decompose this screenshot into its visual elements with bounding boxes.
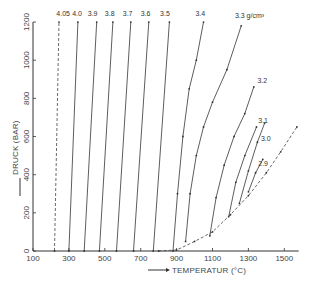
x-axis-title: TEMPERATUR (°C) [172, 266, 246, 275]
curve-label: 3.4 [195, 10, 205, 17]
curve-label: 3.0 [261, 135, 271, 142]
curve-label: 3.2 [257, 77, 267, 84]
data-point [116, 250, 118, 252]
data-point [176, 249, 178, 251]
curve-label: 3.6 [141, 10, 151, 17]
data-point [148, 21, 150, 23]
data-point [194, 241, 196, 243]
data-point [130, 21, 132, 23]
data-point [265, 172, 267, 174]
data-point [209, 235, 211, 237]
data-point [226, 69, 228, 71]
data-point [256, 141, 258, 143]
isochore-3.7 [117, 22, 131, 251]
x-arrowhead-icon [166, 268, 170, 272]
curve-label: 3.5 [160, 10, 170, 17]
axes: 1003005007009001100130015000200400600800… [22, 13, 299, 263]
x-tick-label: 700 [134, 254, 148, 263]
data-point [223, 164, 225, 166]
isochore-3.3gcm [186, 26, 242, 242]
isochore-4.05 [55, 22, 60, 251]
data-point [99, 250, 101, 252]
data-point [203, 21, 205, 23]
data-point [189, 193, 191, 195]
data-point [188, 88, 190, 90]
y-tick-label: 400 [22, 167, 31, 181]
x-tick-label: 500 [98, 254, 112, 263]
data-point [230, 214, 232, 216]
y-tick-label: 600 [22, 129, 31, 143]
isochore-chart: 1003005007009001100130015000200400600800… [0, 0, 319, 287]
curve-label: 4.05 [56, 10, 70, 17]
data-point [185, 241, 187, 243]
data-point [215, 197, 217, 199]
data-point [96, 21, 98, 23]
data-point [112, 21, 114, 23]
curve-label: 2.9 [258, 160, 268, 167]
data-point [212, 231, 214, 233]
data-point [280, 151, 282, 153]
x-tick-label: 1500 [275, 254, 293, 263]
data-point [256, 126, 258, 128]
data-point [255, 172, 257, 174]
data-point [182, 136, 184, 138]
x-tick-label: 900 [170, 254, 184, 263]
y-axis-title: DRUCK (BAR) [11, 120, 20, 175]
y-tick-label: 0 [22, 248, 31, 253]
isochore-3.2 [210, 87, 254, 236]
data-point [212, 101, 214, 103]
data-point [253, 86, 255, 88]
data-point [248, 170, 250, 172]
data-point [54, 250, 56, 252]
y-tick-label: 200 [22, 206, 31, 220]
isochore-3.6 [134, 22, 149, 251]
data-point [177, 193, 179, 195]
data-point [203, 126, 205, 128]
curve-label: 4.0 [72, 10, 82, 17]
x-tick-label: 1300 [240, 254, 258, 263]
curve-label: 3.9 [88, 10, 98, 17]
data-point [58, 21, 60, 23]
x-tick-label: 300 [62, 254, 76, 263]
isochore-phaseboundary [159, 127, 297, 251]
data-point [83, 250, 85, 252]
isochore-4.0 [69, 22, 78, 251]
x-tick-label: 100 [26, 254, 40, 263]
curve-label: 3.3 g/cm³ [235, 12, 265, 20]
data-point [195, 155, 197, 157]
data-point [169, 21, 171, 23]
curve-label: 3.1 [258, 117, 268, 124]
data-point [248, 191, 250, 193]
curve-label: 3.8 [105, 10, 115, 17]
isochore-3.9 [84, 22, 97, 251]
isochore-3.5 [153, 22, 169, 251]
y-tick-label: 800 [22, 91, 31, 105]
y-tick-label: 1200 [22, 13, 31, 31]
data-point [233, 136, 235, 138]
data-point [158, 250, 160, 252]
data-point [68, 250, 70, 252]
curve-label: 3.7 [123, 10, 133, 17]
data-point [248, 195, 250, 197]
data-point [195, 59, 197, 61]
isochore-3.8 [99, 22, 113, 251]
data-point [296, 126, 298, 128]
data-point [133, 250, 135, 252]
data-point [244, 113, 246, 115]
x-tick-label: 1100 [204, 254, 222, 263]
data-point [152, 250, 154, 252]
data-point [77, 21, 79, 23]
data-point [235, 181, 237, 183]
data-point [240, 25, 242, 27]
data-point [244, 155, 246, 157]
y-tick-label: 1000 [22, 51, 31, 69]
